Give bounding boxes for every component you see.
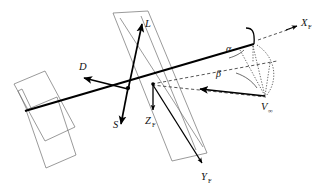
x-axis-extension (258, 26, 297, 40)
x-axis-label: X F (300, 17, 312, 30)
alpha-label: α (226, 43, 232, 54)
svg-text:∞: ∞ (268, 107, 273, 114)
svg-text:F: F (152, 121, 156, 128)
velocity-label: V ∞ (261, 101, 273, 114)
left-wing-panel (14, 71, 76, 168)
side-force-label: S (113, 119, 119, 130)
svg-text:F: F (308, 23, 312, 30)
svg-text:F: F (208, 177, 212, 184)
svg-text:Y: Y (201, 171, 208, 182)
lift-label: L (144, 18, 151, 29)
velocity-vector (200, 89, 265, 96)
drag-label: D (78, 61, 87, 72)
diagram-canvas: L D S X F Y F Z F V ∞ α β (0, 0, 320, 188)
svg-text:Z: Z (145, 115, 151, 126)
axis-hook-icon (246, 28, 254, 44)
y-axis-label: Y F (201, 171, 212, 184)
origin-node (126, 86, 130, 90)
side-force-vector (121, 88, 128, 124)
aerodynamics-diagram: L D S X F Y F Z F V ∞ α β (0, 0, 320, 188)
svg-text:X: X (300, 17, 308, 28)
secondary-axis-node (151, 82, 155, 86)
beta-label: β (215, 68, 221, 79)
